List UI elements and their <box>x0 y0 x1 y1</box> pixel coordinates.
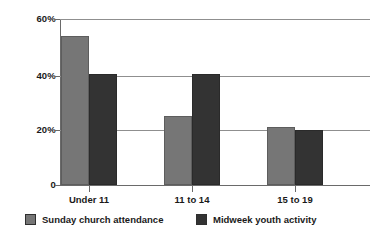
bar-under-11-midweek-youth-activity <box>89 74 117 185</box>
x-tick-mark-under-11 <box>89 186 90 192</box>
gridline-0-baseline <box>60 185 370 186</box>
x-axis-label-under-11: Under 11 <box>59 194 119 205</box>
bar-11-to-14-sunday-church-attendance <box>164 116 192 185</box>
bar-15-to-19-midweek-youth-activity <box>295 130 323 185</box>
x-tick-mark-11-to-14 <box>192 186 193 192</box>
chart-legend: Sunday church attendance Midweek youth a… <box>0 212 377 232</box>
legend-swatch-icon-midweek-youth-activity <box>196 214 207 225</box>
x-axis-label-15-to-19: 15 to 19 <box>265 194 325 205</box>
bar-15-to-19-sunday-church-attendance <box>267 127 295 185</box>
x-tick-mark-15-to-19 <box>295 186 296 192</box>
gridline-60 <box>60 19 370 20</box>
bar-chart: 60% 40% 20% 0 Under 11 11 to 14 15 to 19… <box>0 0 377 239</box>
legend-item-sunday-church-attendance: Sunday church attendance <box>25 212 163 226</box>
plot-area <box>60 19 370 185</box>
y-axis-label-40: 40% <box>36 71 56 81</box>
bar-11-to-14-midweek-youth-activity <box>192 74 220 185</box>
legend-swatch-icon-sunday-church-attendance <box>25 214 36 225</box>
y-axis-label-20: 20% <box>36 125 56 135</box>
y-axis-label-60: 60% <box>36 14 56 24</box>
bar-under-11-sunday-church-attendance <box>61 36 89 185</box>
legend-label-midweek-youth-activity: Midweek youth activity <box>213 214 316 225</box>
legend-label-sunday-church-attendance: Sunday church attendance <box>42 214 163 225</box>
legend-item-midweek-youth-activity: Midweek youth activity <box>196 212 316 226</box>
x-axis-label-11-to-14: 11 to 14 <box>162 194 222 205</box>
